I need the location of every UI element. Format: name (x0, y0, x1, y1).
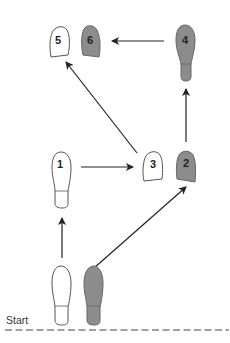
step-number: 4 (182, 34, 189, 46)
footprint-full-icon (84, 266, 103, 325)
step-5-left-ball: 5 (50, 27, 69, 57)
step-6-right-ball: 6 (82, 26, 100, 57)
start-label: Start (6, 314, 28, 326)
footprint-full-icon (52, 266, 71, 325)
step-number: 6 (87, 34, 93, 46)
step-2-right-ball: 2 (176, 151, 195, 182)
step-number: 3 (150, 158, 156, 170)
start-left-foot (52, 266, 71, 325)
step-1-left-full: 1 (52, 152, 71, 208)
step-3-left-ball: 3 (143, 152, 163, 181)
arrow-3-to-5 (66, 62, 137, 153)
step-number: 1 (57, 158, 63, 170)
arrow-start-to-2 (94, 187, 186, 268)
arrows (62, 41, 186, 268)
start-right-foot (84, 266, 103, 325)
step-number: 2 (183, 157, 189, 169)
footwork-diagram: 5 6 4 1 3 2 Start (0, 0, 230, 343)
step-4-right-full: 4 (176, 25, 195, 81)
step-number: 5 (55, 34, 61, 46)
